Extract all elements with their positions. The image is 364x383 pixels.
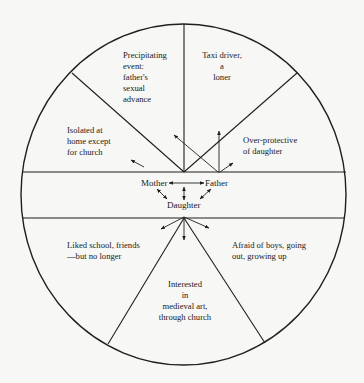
arrow-mother-daughter xyxy=(157,189,167,199)
arrow-mother-to-isolated xyxy=(131,160,144,167)
label-over-protective: Over-protective of daughter xyxy=(243,135,297,157)
arrow-father-to-precipitating xyxy=(174,135,218,172)
node-daughter: Daughter xyxy=(166,200,202,210)
arrow-father-to-overprotective xyxy=(220,163,233,172)
family-circle-diagram xyxy=(0,0,364,383)
arrow-daughter-to-afraid xyxy=(184,217,209,228)
node-father: Father xyxy=(204,178,229,188)
label-taxi-driver: Taxi driver, a loner xyxy=(196,50,248,83)
label-liked-school: Liked school, friends —but no longer xyxy=(67,240,140,262)
label-afraid-of-boys: Afraid of boys, going out, growing up xyxy=(232,240,306,262)
node-mother: Mother xyxy=(140,178,169,188)
label-isolated-at-home: Isolated at home except for church xyxy=(67,125,111,158)
label-medieval-art: Interested in medieval art, through chur… xyxy=(150,279,220,323)
arrow-father-daughter xyxy=(200,189,211,199)
label-precipitating-event: Precipitating event: father's sexual adv… xyxy=(123,50,167,105)
